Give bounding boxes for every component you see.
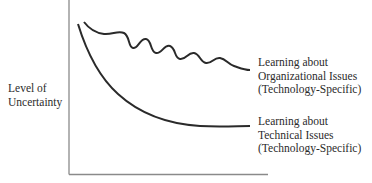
org-label-line-1: Learning about [258, 56, 361, 70]
tech-label-line-3: (Technology-Specific) [258, 142, 361, 156]
tech-label-line-2: Technical Issues [258, 129, 361, 143]
technical-issues-label: Learning about Technical Issues (Technol… [258, 115, 361, 156]
y-axis-label-line-1: Level of [8, 82, 62, 96]
tech-label-line-1: Learning about [258, 115, 361, 129]
y-axis-label-line-2: Uncertainty [8, 96, 62, 110]
y-axis-label: Level of Uncertainty [8, 82, 62, 109]
technical-issues-curve [78, 24, 250, 126]
organizational-issues-label: Learning about Organizational Issues (Te… [258, 56, 361, 97]
org-label-line-2: Organizational Issues [258, 70, 361, 84]
organizational-issues-curve [84, 22, 250, 70]
org-label-line-3: (Technology-Specific) [258, 83, 361, 97]
